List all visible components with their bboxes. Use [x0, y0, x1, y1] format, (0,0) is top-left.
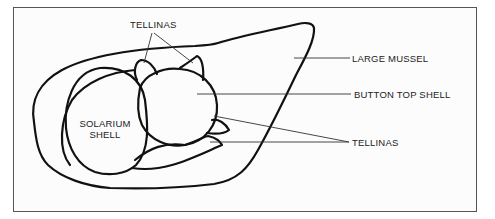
tellina-right [207, 120, 229, 134]
label-button-top-shell: BUTTON TOP SHELL [354, 89, 450, 100]
button-top-shell-outline [138, 68, 217, 145]
tellina-top-left [135, 60, 157, 80]
label-solarium-shell: SOLARIUM SHELL [70, 118, 140, 140]
leader-tellinas-bottom-upper [214, 116, 349, 142]
label-large-mussel: LARGE MUSSEL [352, 53, 428, 64]
shell-diagram [0, 0, 495, 219]
label-solarium-line1: SOLARIUM [70, 118, 140, 129]
label-tellinas-bottom: TELLINAS [352, 137, 398, 148]
label-tellinas-top: TELLINAS [130, 19, 176, 30]
label-solarium-line2: SHELL [70, 129, 140, 140]
